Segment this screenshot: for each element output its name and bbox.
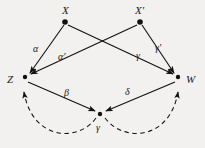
edge-label-delta: δ xyxy=(125,86,130,97)
edge-label-gamma-prime: γ' xyxy=(155,42,162,53)
node-X-dot[interactable] xyxy=(62,19,68,25)
node-group xyxy=(23,19,180,116)
edge-arc-left-path xyxy=(24,92,96,133)
node-label-Z: Z xyxy=(7,73,14,85)
edge-delta-line xyxy=(106,82,175,111)
node-Xprime-dot[interactable] xyxy=(137,19,143,25)
edge-arc-right-path xyxy=(105,92,178,133)
diagram-container: X X' Z W γ α α' γ γ' β δ xyxy=(0,0,205,148)
node-label-Y: γ xyxy=(96,122,101,133)
edge-label-alpha: α xyxy=(33,43,39,54)
edge-label-beta: β xyxy=(63,87,69,98)
node-Y-dot[interactable] xyxy=(98,112,102,116)
edge-group-lower xyxy=(28,82,175,111)
edge-group-upper xyxy=(30,25,174,74)
edge-label-alpha-prime: α' xyxy=(58,51,66,62)
node-label-X: X xyxy=(61,4,70,16)
node-Z-dot[interactable] xyxy=(23,75,27,79)
node-label-Xprime: X' xyxy=(134,4,145,16)
node-W-dot[interactable] xyxy=(176,75,180,79)
node-label-W: W xyxy=(186,73,196,85)
edge-label-gamma: γ xyxy=(136,50,141,61)
edge-beta-line xyxy=(28,82,95,111)
graph-canvas: X X' Z W γ α α' γ γ' β δ xyxy=(0,0,205,148)
edge-label-group: α α' γ γ' β δ xyxy=(33,42,162,98)
